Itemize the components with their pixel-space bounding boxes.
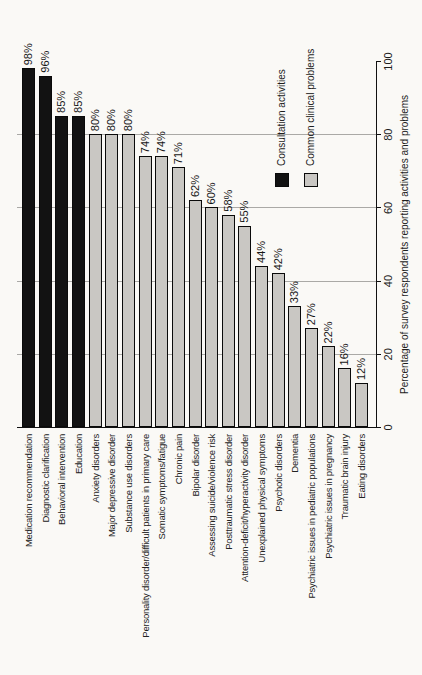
axis-tick [377, 61, 381, 62]
axis-tick-label: 0 [382, 411, 394, 445]
category-label: Psychiatric issues in pediatric populati… [305, 434, 318, 675]
bar [139, 156, 152, 427]
category-label: Major depressive disorder [105, 434, 118, 675]
plot-area: Percentage of survey respondents reporti… [0, 0, 422, 675]
value-label: 42% [272, 248, 285, 270]
legend-swatch-gray [304, 173, 318, 187]
category-label: Anxiety disorders [89, 434, 102, 675]
legend-swatch-black [275, 173, 289, 187]
category-label: Medication recommendation [22, 434, 35, 675]
legend-entry-consultation: Consultation activities [275, 49, 289, 187]
value-label: 80% [89, 109, 102, 131]
value-label: 16% [338, 343, 351, 365]
bar [39, 76, 52, 427]
legend-entry-clinical: Common clinical problems [304, 49, 318, 187]
value-label: 12% [355, 358, 368, 380]
value-axis-line [376, 61, 377, 428]
value-label: 22% [322, 321, 335, 343]
category-label: Unexplained physical symptoms [255, 434, 268, 675]
category-label: Chronic pain [172, 434, 185, 675]
value-label: 44% [255, 241, 268, 263]
legend-label: Consultation activities [275, 69, 289, 166]
value-label: 58% [222, 190, 235, 212]
category-label: Bipolar disorder [189, 434, 202, 675]
value-label: 33% [288, 281, 301, 303]
axis-tick [377, 427, 381, 428]
bar [288, 306, 301, 427]
axis-tick-label: 80 [382, 118, 394, 152]
value-label: 85% [55, 91, 68, 113]
legend: Consultation activities Common clinical … [275, 49, 333, 187]
bar [189, 200, 202, 427]
bar [355, 383, 368, 427]
axis-tick-label: 20 [382, 337, 394, 371]
axis-tick-label: 40 [382, 264, 394, 298]
bar [322, 346, 335, 427]
value-label: 85% [72, 91, 85, 113]
chart-canvas: Percentage of survey respondents reporti… [0, 0, 422, 675]
bar [22, 68, 35, 427]
category-label: Psychotic disorders [272, 434, 285, 675]
value-label: 80% [122, 109, 135, 131]
axis-tick-label: 100 [382, 45, 394, 79]
value-label: 62% [189, 175, 202, 197]
value-label: 71% [172, 142, 185, 164]
value-axis-title: Percentage of survey respondents reporti… [399, 62, 410, 428]
bar [272, 273, 285, 427]
value-label: 80% [105, 109, 118, 131]
category-label: Education [72, 434, 85, 675]
bar [205, 207, 218, 427]
value-label: 55% [238, 201, 251, 223]
category-axis-line [17, 427, 377, 428]
bar [255, 266, 268, 427]
category-label: Traumatic brain injury [338, 434, 351, 675]
category-label: Posttraumatic stress disorder [222, 434, 235, 675]
bar [55, 116, 68, 427]
bar [338, 368, 351, 427]
bar [155, 156, 168, 427]
value-label: 74% [155, 131, 168, 153]
bar [172, 167, 185, 427]
axis-tick [377, 134, 381, 135]
bar [122, 134, 135, 427]
bar [89, 134, 102, 427]
axis-tick [377, 281, 381, 282]
bar [222, 215, 235, 427]
figure-rotated-page: Percentage of survey respondents reporti… [0, 0, 422, 675]
bar [72, 116, 85, 427]
category-label: Personality disorder/difficult patients … [139, 434, 152, 675]
category-label: Psychiatric issues in pregnancy [322, 434, 335, 675]
category-label: Assessing suicide/violence risk [205, 434, 218, 675]
category-label: Behavioral intervention [55, 434, 68, 675]
legend-label: Common clinical problems [304, 49, 318, 166]
category-label: Eating disorders [355, 434, 368, 675]
category-label: Dementia [288, 434, 301, 675]
axis-tick-label: 60 [382, 191, 394, 225]
value-label: 96% [39, 51, 52, 73]
axis-tick [377, 207, 381, 208]
value-label: 60% [205, 182, 218, 204]
category-label: Substance use disorders [122, 434, 135, 675]
bar [238, 226, 251, 427]
bar [305, 328, 318, 427]
value-label: 98% [22, 43, 35, 65]
bar [105, 134, 118, 427]
category-label: Somatic symptoms/fatigue [155, 434, 168, 675]
value-label: 27% [305, 303, 318, 325]
category-label: Diagnostic clarification [39, 434, 52, 675]
category-label: Attention-deficit/hyperactivity disorder [238, 434, 251, 675]
value-label: 74% [139, 131, 152, 153]
axis-tick [377, 354, 381, 355]
